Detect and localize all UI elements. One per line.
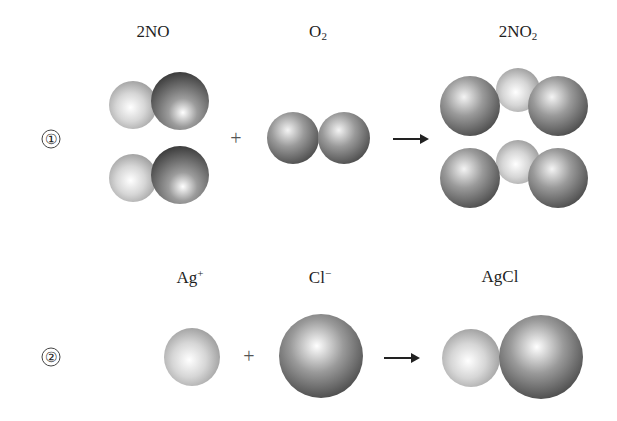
plus-sign-2: + xyxy=(243,346,254,366)
no-molecule-top xyxy=(109,72,209,130)
no2-molecule-top xyxy=(440,68,588,136)
label-cl-ion: Cl− xyxy=(309,267,331,288)
arrow-icon-1 xyxy=(393,138,427,140)
formula: Cl xyxy=(309,268,325,287)
reaction-number-1: ① xyxy=(42,130,61,149)
formula: O xyxy=(309,22,321,41)
subscript: 2 xyxy=(321,30,327,42)
agcl-molecule xyxy=(442,315,583,399)
arrow-icon-2 xyxy=(384,357,418,359)
label-2no: 2NO xyxy=(136,22,169,42)
cl-ion xyxy=(279,314,363,398)
formula: Ag xyxy=(177,268,198,287)
label-agcl: AgCl xyxy=(482,267,519,287)
subscript: 2 xyxy=(532,30,538,42)
charge: − xyxy=(325,267,331,279)
label-o2: O2 xyxy=(309,22,327,42)
formula: AgCl xyxy=(482,267,519,286)
coefficient: 2 xyxy=(499,22,508,41)
coefficient: 2 xyxy=(136,22,145,41)
reaction-number-2: ② xyxy=(42,348,61,367)
o2-molecule xyxy=(267,112,370,164)
label-2no2: 2NO2 xyxy=(499,22,538,42)
no2-molecule-bottom xyxy=(440,140,588,208)
formula: NO xyxy=(507,22,532,41)
label-ag-ion: Ag+ xyxy=(177,267,204,288)
plus-sign-1: + xyxy=(230,128,241,148)
no-molecule-bottom xyxy=(109,146,209,204)
ag-ion xyxy=(164,328,220,386)
molecule-drawing xyxy=(0,0,617,421)
formula: NO xyxy=(145,22,170,41)
charge: + xyxy=(197,267,203,279)
